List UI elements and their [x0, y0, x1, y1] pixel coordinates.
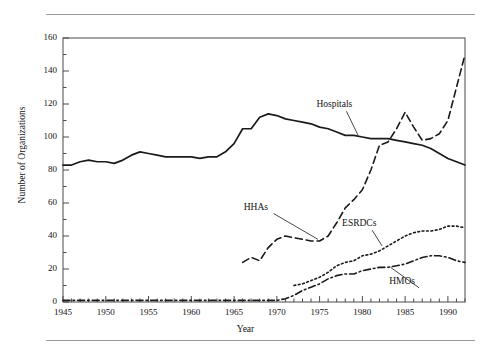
x-axis-tick-label: 1985 — [385, 307, 425, 317]
x-axis-title: Year — [0, 324, 491, 334]
series-label-hmos: HMOs — [389, 276, 415, 286]
series-label-hospitals: Hospitals — [316, 99, 352, 109]
x-axis-tick-label: 1965 — [214, 307, 254, 317]
y-axis-tick-label: 40 — [29, 230, 57, 240]
series-label-hhas: HHAs — [244, 202, 268, 212]
y-axis-tick-label: 140 — [29, 65, 57, 75]
y-axis-tick-label: 20 — [29, 263, 57, 273]
y-axis-tick-label: 60 — [29, 197, 57, 207]
y-axis-tick-label: 80 — [29, 164, 57, 174]
annotation-leader-hospitals — [346, 111, 358, 135]
y-axis-tick-label: 160 — [29, 32, 57, 42]
x-axis-tick-label: 1980 — [342, 307, 382, 317]
line-chart-plot — [0, 0, 491, 354]
series-line-hospitals — [63, 114, 465, 165]
x-axis-tick-label: 1950 — [86, 307, 126, 317]
x-axis-tick-label: 1945 — [43, 307, 83, 317]
x-axis-tick-label: 1955 — [129, 307, 169, 317]
plot-frame — [63, 38, 465, 302]
y-axis-tick-label: 0 — [29, 296, 57, 306]
annotation-leader-esrdcs — [372, 230, 382, 246]
y-axis-title: Number of Organizations — [17, 100, 27, 210]
annotation-leader-hhas — [274, 214, 318, 240]
x-axis-tick-label: 1975 — [300, 307, 340, 317]
y-axis-tick-label: 100 — [29, 131, 57, 141]
x-axis-tick-label: 1970 — [257, 307, 297, 317]
x-axis-tick-label: 1960 — [171, 307, 211, 317]
y-axis-tick-label: 120 — [29, 98, 57, 108]
x-axis-tick-label: 1990 — [428, 307, 468, 317]
series-label-esrdcs: ESRDCs — [342, 218, 376, 228]
figure-container: Number of Organizations Year 02040608010… — [0, 0, 491, 354]
